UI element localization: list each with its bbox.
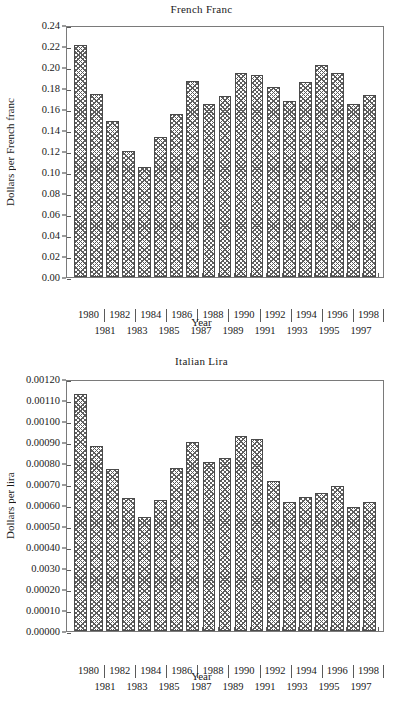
bar xyxy=(90,446,103,631)
y-tick-mark-inner xyxy=(67,153,71,154)
y-tick-mark-inner xyxy=(67,633,71,634)
x-tick-mark xyxy=(330,273,331,277)
bar xyxy=(122,151,135,277)
y-tick-label: 0.00090 xyxy=(26,438,60,449)
chart-french-franc: French Franc Dollars per French franc 0.… xyxy=(0,0,403,352)
x-tick-mark xyxy=(266,273,267,277)
x-tick-mark xyxy=(122,273,123,277)
x-tick-mark xyxy=(346,627,347,631)
y-tick-mark-inner xyxy=(67,69,71,70)
bar xyxy=(203,104,216,277)
chart-title: Italian Lira xyxy=(0,355,403,367)
bar xyxy=(122,498,135,631)
bar xyxy=(347,507,360,631)
y-axis-ticks: 0.000.020.040.060.080.100.120.140.160.18… xyxy=(4,26,66,278)
chart-italian-lira: Italian Lira Dollars per lira 0.000000.0… xyxy=(0,352,403,704)
y-tick-label: 0.14 xyxy=(42,126,60,137)
y-tick-mark-inner xyxy=(67,402,71,403)
x-axis-label: Year xyxy=(0,316,403,328)
x-tick-mark xyxy=(202,627,203,631)
y-tick-label: 0.12 xyxy=(42,147,60,158)
bar xyxy=(74,45,87,277)
y-tick-label: 0.22 xyxy=(42,42,60,53)
plot-area-wrapper: 0.000.020.040.060.080.100.120.140.160.18… xyxy=(66,26,384,278)
x-tick-mark xyxy=(74,627,75,631)
x-tick-mark xyxy=(378,273,379,277)
plot-frame xyxy=(66,380,384,632)
bar xyxy=(219,458,232,631)
x-tick-mark xyxy=(170,273,171,277)
y-tick-mark-inner xyxy=(67,444,71,445)
x-tick-mark xyxy=(298,273,299,277)
y-tick-label: 0.00100 xyxy=(26,417,60,428)
x-axis-ticks-bottom: 198119831985198719891991199319951997 xyxy=(66,682,384,693)
x-tick-mark xyxy=(218,627,219,631)
x-tick-mark xyxy=(234,627,235,631)
y-tick-mark-inner xyxy=(67,27,71,28)
y-tick-label: 0.00050 xyxy=(26,522,60,533)
bar xyxy=(154,500,167,631)
x-tick-mark xyxy=(122,627,123,631)
bar-series xyxy=(67,381,383,631)
bar xyxy=(138,517,151,631)
x-tick-mark xyxy=(250,627,251,631)
y-tick-mark-inner xyxy=(67,549,71,550)
x-tick-mark xyxy=(106,627,107,631)
bar xyxy=(283,502,296,631)
y-axis-ticks: 0.000000.000100.000200.00300.000400.0005… xyxy=(4,380,66,632)
y-tick-mark-inner xyxy=(67,48,71,49)
y-tick-label: 0.00020 xyxy=(26,585,60,596)
bar xyxy=(299,497,312,631)
x-tick-label-odd: 1991 xyxy=(249,682,281,693)
bar xyxy=(74,394,87,631)
y-tick-mark-inner xyxy=(67,195,71,196)
bar xyxy=(90,94,103,277)
x-tick-mark xyxy=(362,627,363,631)
x-tick-mark xyxy=(250,273,251,277)
chart-title: French Franc xyxy=(0,3,403,15)
x-tick-mark xyxy=(314,273,315,277)
bar xyxy=(267,87,280,277)
y-tick-label: 0.00080 xyxy=(26,459,60,470)
y-tick-label: 0.00120 xyxy=(26,375,60,386)
x-tick-mark xyxy=(298,627,299,631)
y-tick-label: 0.04 xyxy=(42,231,60,242)
y-tick-mark-inner xyxy=(67,423,71,424)
y-tick-mark-inner xyxy=(67,591,71,592)
x-tick-mark xyxy=(266,627,267,631)
y-tick-mark-inner xyxy=(67,528,71,529)
bar xyxy=(347,104,360,277)
x-tick-label-odd: 1995 xyxy=(313,682,345,693)
y-tick-mark-inner xyxy=(67,570,71,571)
y-tick-label: 0.16 xyxy=(42,105,60,116)
y-tick-label: 0.18 xyxy=(42,84,60,95)
y-tick-label: 0.0030 xyxy=(31,564,60,575)
x-tick-mark xyxy=(106,273,107,277)
x-tick-mark xyxy=(314,627,315,631)
x-tick-mark xyxy=(170,627,171,631)
x-tick-label-odd: 1987 xyxy=(185,682,217,693)
y-tick-mark-inner xyxy=(67,381,71,382)
x-tick-mark xyxy=(346,273,347,277)
bar xyxy=(154,137,167,277)
y-tick-mark-inner xyxy=(67,279,71,280)
x-tick-mark xyxy=(362,273,363,277)
y-tick-label: 0.08 xyxy=(42,189,60,200)
x-tick-mark xyxy=(202,273,203,277)
bar xyxy=(331,486,344,631)
bar xyxy=(267,481,280,631)
bar xyxy=(315,65,328,277)
bar xyxy=(235,436,248,631)
bar-series xyxy=(67,27,383,277)
plot-area-wrapper: 0.000000.000100.000200.00300.000400.0005… xyxy=(66,380,384,632)
x-tick-mark xyxy=(138,273,139,277)
y-tick-label: 0.00040 xyxy=(26,543,60,554)
bar xyxy=(106,121,119,277)
y-tick-mark-inner xyxy=(67,237,71,238)
x-tick-label-odd: 1989 xyxy=(217,682,249,693)
x-tick-label-odd: 1983 xyxy=(121,682,153,693)
y-tick-label: 0.10 xyxy=(42,168,60,179)
plot-frame xyxy=(66,26,384,278)
figure-page: French Franc Dollars per French franc 0.… xyxy=(0,0,403,711)
x-axis-label: Year xyxy=(0,670,403,682)
